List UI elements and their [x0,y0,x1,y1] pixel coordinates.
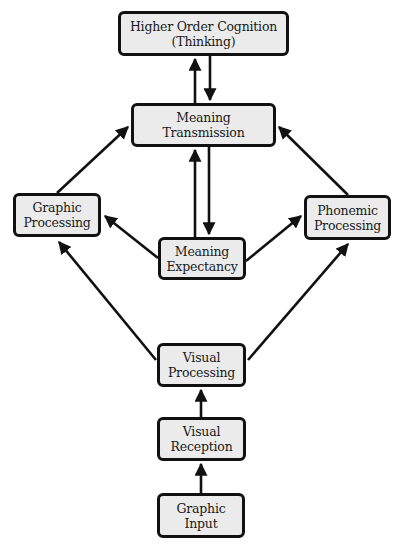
node-graphic-processing: Graphic Processing [13,193,101,237]
node-label-line2: Reception [170,439,232,454]
reading-process-diagram: Higher Order Cognition (Thinking) Meanin… [0,0,403,544]
node-phonemic-processing: Phonemic Processing [304,195,391,240]
node-visual-reception: Visual Reception [157,417,246,461]
node-higher-order-cognition: Higher Order Cognition (Thinking) [118,11,289,56]
node-label-line1: Meaning [175,244,229,259]
node-visual-processing: Visual Processing [157,343,246,387]
node-label-line2: Expectancy [166,259,237,274]
arrow-visual-processing-to-graphic-processing [59,242,156,360]
node-graphic-input: Graphic Input [157,493,245,538]
node-label-line1: Visual [183,424,221,439]
node-label-line1: Higher Order Cognition [130,19,277,34]
node-label-line2: Input [184,516,217,531]
arrow-visual-processing-to-phonemic-processing [248,244,348,360]
node-label-line2: Transmission [162,125,244,140]
arrow-meaning-expectancy-to-graphic-processing [105,216,158,258]
node-meaning-expectancy: Meaning Expectancy [158,237,246,280]
node-label-line1: Meaning [176,110,230,125]
node-label-line1: Visual [183,350,221,365]
node-label-line1: Graphic [176,501,225,516]
node-label-line2: Processing [314,218,381,233]
node-label-line2: Processing [168,365,235,380]
node-label-line1: Phonemic [317,203,378,218]
arrow-phonemic-processing-to-meaning-transmission [279,127,348,195]
arrow-graphic-processing-to-meaning-transmission [57,127,128,193]
node-meaning-transmission: Meaning Transmission [131,103,276,147]
node-label-line2: (Thinking) [172,34,236,49]
node-label-line2: Processing [23,215,90,230]
node-label-line1: Graphic [32,200,81,215]
arrow-meaning-expectancy-to-phonemic-processing [246,216,301,261]
